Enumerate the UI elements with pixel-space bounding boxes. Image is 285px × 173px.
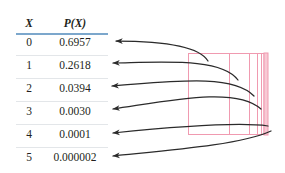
arrow-to-row-2 <box>112 81 254 96</box>
histogram-bars <box>189 53 269 135</box>
probability-distribution-figure: X P(X) 0 0.6957 1 0.2618 2 0.0394 3 0.00… <box>0 0 285 173</box>
cell-x-value: 5 <box>16 148 42 167</box>
table-row: 3 0.0030 <box>16 102 108 125</box>
link-arrows <box>112 41 271 156</box>
arrow-to-row-5 <box>113 131 271 156</box>
cell-x-value: 3 <box>16 102 42 121</box>
cell-p-value: 0.0394 <box>42 79 108 98</box>
arrow-to-row-4 <box>113 125 268 133</box>
column-header-px: P(X) <box>42 14 108 33</box>
bar-2 <box>250 54 258 135</box>
arrow-to-row-0 <box>116 41 208 61</box>
bar-3 <box>258 54 262 135</box>
arrow-to-row-3 <box>113 97 261 109</box>
probability-table: X P(X) 0 0.6957 1 0.2618 2 0.0394 3 0.00… <box>16 14 108 171</box>
cell-x-value: 0 <box>16 33 42 52</box>
bar-0 <box>189 54 230 135</box>
bar-5 <box>264 53 268 135</box>
cell-x-value: 2 <box>16 79 42 98</box>
cell-x-value: 4 <box>16 125 42 144</box>
cell-p-value: 0.6957 <box>42 33 108 52</box>
cell-p-value: 0.000002 <box>42 148 108 167</box>
bar-1 <box>230 54 250 135</box>
bar-4 <box>262 54 265 135</box>
cell-p-value: 0.0001 <box>42 125 108 144</box>
table-row: 4 0.0001 <box>16 125 108 148</box>
table-row: 0 0.6957 <box>16 33 108 56</box>
cell-p-value: 0.0030 <box>42 102 108 121</box>
table-header-row: X P(X) <box>16 14 108 33</box>
table-row: 5 0.000002 <box>16 148 108 171</box>
arrow-to-row-1 <box>113 62 238 80</box>
cell-p-value: 0.2618 <box>42 56 108 75</box>
cell-x-value: 1 <box>16 56 42 75</box>
table-row: 1 0.2618 <box>16 56 108 79</box>
column-header-x: X <box>16 14 42 33</box>
table-row: 2 0.0394 <box>16 79 108 102</box>
